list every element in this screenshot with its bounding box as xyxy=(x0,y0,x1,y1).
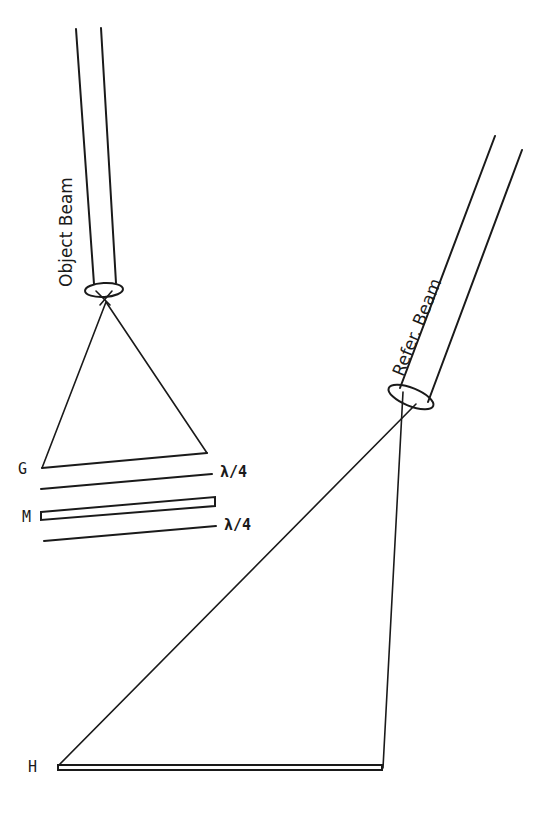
diagram-canvas xyxy=(0,0,533,814)
object-beam xyxy=(76,28,116,284)
waveplate-2 xyxy=(44,526,216,541)
mirror-M-plate xyxy=(41,497,215,520)
object-cone xyxy=(42,291,207,468)
mirror-label: M xyxy=(22,510,31,525)
object-beam-label: Object Beam xyxy=(58,177,75,287)
grating-G-plate xyxy=(42,453,207,468)
hologram-label: H xyxy=(28,760,37,775)
quarter-wave-1-label: λ/4 xyxy=(220,465,247,480)
reference-beam xyxy=(400,136,522,402)
waveplate-1 xyxy=(41,474,212,489)
hologram-H-plate xyxy=(58,765,382,770)
reference-cone xyxy=(58,392,416,768)
quarter-wave-2-label: λ/4 xyxy=(224,518,251,533)
grating-label: G xyxy=(18,462,27,477)
object-lens xyxy=(85,282,124,298)
